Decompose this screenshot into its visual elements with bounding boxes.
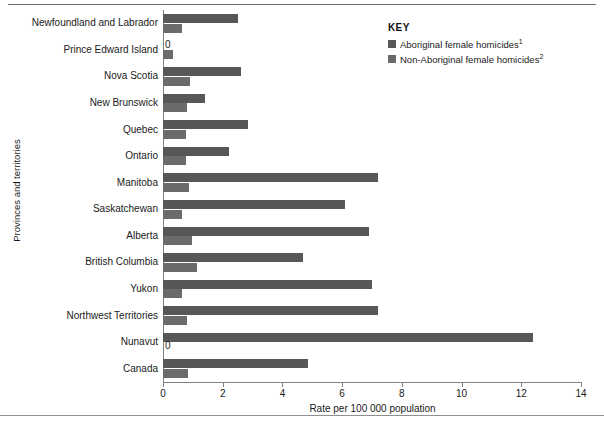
x-axis-tick xyxy=(282,382,283,387)
bar xyxy=(163,280,372,289)
legend-swatch-icon xyxy=(388,40,396,48)
bar xyxy=(163,50,173,59)
x-axis-tick xyxy=(342,382,343,387)
legend-item: Non-Aboriginal female homicides2 xyxy=(388,53,598,65)
category-label: Manitoba xyxy=(0,177,158,188)
x-axis-tick xyxy=(462,382,463,387)
bar xyxy=(163,236,192,245)
bar xyxy=(163,253,303,262)
x-axis-tick-label: 0 xyxy=(148,388,178,400)
chart-legend: KEY Aboriginal female homicides1Non-Abor… xyxy=(388,22,598,68)
bar xyxy=(163,147,229,156)
bar xyxy=(163,103,187,112)
bottom-divider xyxy=(0,415,604,416)
x-axis-tick xyxy=(521,382,522,387)
x-axis-tick-label: 8 xyxy=(387,388,417,400)
legend-swatch-icon xyxy=(388,55,396,63)
category-label: Yukon xyxy=(0,283,158,294)
category-label: New Brunswick xyxy=(0,97,158,108)
top-divider xyxy=(8,4,596,5)
category-label: Saskatchewan xyxy=(0,203,158,214)
zero-value-label: 0 xyxy=(165,341,171,351)
x-axis-tick xyxy=(402,382,403,387)
x-axis-line xyxy=(163,382,582,383)
legend-label: Aboriginal female homicides1 xyxy=(400,38,523,50)
bar xyxy=(163,200,345,209)
category-label: Prince Edward Island xyxy=(0,44,158,55)
x-axis-tick-label: 12 xyxy=(506,388,536,400)
bar xyxy=(163,130,186,139)
bar xyxy=(163,263,197,272)
y-axis-title: Provinces and territories xyxy=(11,111,22,271)
bar xyxy=(163,173,378,182)
bar xyxy=(163,359,308,368)
category-label: Ontario xyxy=(0,150,158,161)
y-axis-line xyxy=(163,10,164,382)
zero-value-label: 0 xyxy=(165,40,171,50)
x-axis-tick-label: 2 xyxy=(208,388,238,400)
category-label: Canada xyxy=(0,363,158,374)
bar xyxy=(163,156,186,165)
x-axis-tick xyxy=(581,382,582,387)
bar xyxy=(163,24,182,33)
x-axis-title: Rate per 100 000 population xyxy=(163,403,582,414)
bar xyxy=(163,306,378,315)
bar xyxy=(163,183,189,192)
category-label: Quebec xyxy=(0,124,158,135)
legend-title: KEY xyxy=(388,22,598,33)
chart-figure: 02468101214 00 Newfoundland and Labrador… xyxy=(0,0,604,424)
category-label: British Columbia xyxy=(0,256,158,267)
bar xyxy=(163,227,369,236)
bar xyxy=(163,210,182,219)
x-axis-tick-label: 4 xyxy=(267,388,297,400)
bar xyxy=(163,316,187,325)
category-label: Nova Scotia xyxy=(0,70,158,81)
x-axis-tick xyxy=(223,382,224,387)
legend-label: Non-Aboriginal female homicides2 xyxy=(400,53,543,65)
bar xyxy=(163,289,182,298)
category-label: Northwest Territories xyxy=(0,310,158,321)
bar xyxy=(163,94,205,103)
bar xyxy=(163,14,238,23)
category-label: Nunavut xyxy=(0,336,158,347)
legend-item: Aboriginal female homicides1 xyxy=(388,38,598,50)
category-label: Alberta xyxy=(0,230,158,241)
bar xyxy=(163,77,190,86)
bar xyxy=(163,369,188,378)
category-label: Newfoundland and Labrador xyxy=(0,17,158,28)
x-axis-tick xyxy=(163,382,164,387)
x-axis-tick-label: 14 xyxy=(566,388,596,400)
bar xyxy=(163,120,248,129)
x-axis-tick-label: 10 xyxy=(447,388,477,400)
legend-items: Aboriginal female homicides1Non-Aborigin… xyxy=(388,38,598,65)
bar xyxy=(163,333,533,342)
bar xyxy=(163,67,241,76)
x-axis-tick-label: 6 xyxy=(327,388,357,400)
